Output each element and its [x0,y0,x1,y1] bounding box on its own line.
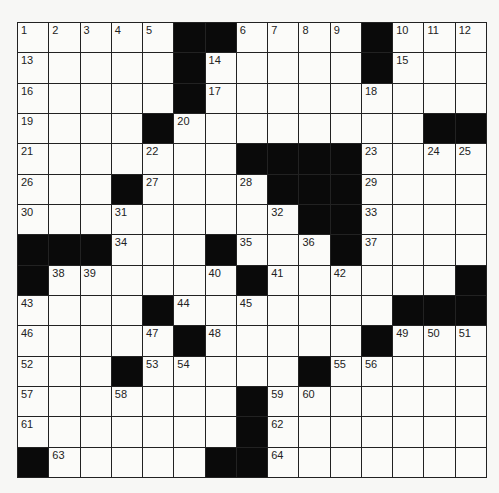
grid-cell-r4-c11[interactable]: 23 [362,144,392,173]
grid-cell-r6-c13[interactable] [424,205,454,234]
grid-cell-r0-c10[interactable]: 9 [331,23,361,52]
grid-cell-r14-c10[interactable] [331,448,361,477]
grid-cell-r9-c8[interactable] [268,296,298,325]
grid-cell-r8-c13[interactable] [424,266,454,295]
grid-cell-r13-c11[interactable] [362,417,392,446]
grid-cell-r2-c6[interactable]: 17 [206,84,236,113]
grid-cell-r8-c6[interactable]: 40 [206,266,236,295]
grid-cell-r10-c12[interactable]: 49 [393,326,423,355]
grid-cell-r8-c9[interactable] [299,266,329,295]
grid-cell-r12-c6[interactable] [206,387,236,416]
grid-cell-r6-c4[interactable] [143,205,173,234]
grid-cell-r6-c11[interactable]: 33 [362,205,392,234]
grid-cell-r5-c11[interactable]: 29 [362,175,392,204]
grid-cell-r6-c6[interactable] [206,205,236,234]
grid-cell-r8-c11[interactable] [362,266,392,295]
grid-cell-r14-c12[interactable] [393,448,423,477]
grid-cell-r3-c7[interactable] [237,114,267,143]
grid-cell-r12-c10[interactable] [331,387,361,416]
grid-cell-r11-c1[interactable] [49,357,79,386]
grid-cell-r1-c1[interactable] [49,53,79,82]
grid-cell-r1-c3[interactable] [112,53,142,82]
grid-cell-r6-c0[interactable]: 30 [18,205,48,234]
grid-cell-r11-c4[interactable]: 53 [143,357,173,386]
grid-cell-r13-c5[interactable] [174,417,204,446]
grid-cell-r13-c13[interactable] [424,417,454,446]
grid-cell-r11-c12[interactable] [393,357,423,386]
grid-cell-r7-c3[interactable]: 34 [112,235,142,264]
grid-cell-r13-c9[interactable] [299,417,329,446]
grid-cell-r12-c8[interactable]: 59 [268,387,298,416]
grid-cell-r0-c13[interactable]: 11 [424,23,454,52]
grid-cell-r10-c14[interactable]: 51 [456,326,486,355]
grid-cell-r11-c8[interactable] [268,357,298,386]
grid-cell-r11-c6[interactable] [206,357,236,386]
grid-cell-r3-c3[interactable] [112,114,142,143]
grid-cell-r11-c7[interactable] [237,357,267,386]
grid-cell-r4-c6[interactable] [206,144,236,173]
grid-cell-r9-c5[interactable]: 44 [174,296,204,325]
grid-cell-r10-c0[interactable]: 46 [18,326,48,355]
grid-cell-r9-c1[interactable] [49,296,79,325]
grid-cell-r13-c1[interactable] [49,417,79,446]
grid-cell-r4-c1[interactable] [49,144,79,173]
grid-cell-r8-c12[interactable] [393,266,423,295]
grid-cell-r8-c10[interactable]: 42 [331,266,361,295]
grid-cell-r13-c4[interactable] [143,417,173,446]
grid-cell-r1-c8[interactable] [268,53,298,82]
grid-cell-r7-c9[interactable]: 36 [299,235,329,264]
grid-cell-r2-c14[interactable] [456,84,486,113]
grid-cell-r12-c9[interactable]: 60 [299,387,329,416]
grid-cell-r12-c2[interactable] [81,387,111,416]
grid-cell-r3-c12[interactable] [393,114,423,143]
grid-cell-r6-c1[interactable] [49,205,79,234]
grid-cell-r10-c1[interactable] [49,326,79,355]
grid-cell-r1-c7[interactable] [237,53,267,82]
grid-cell-r1-c14[interactable] [456,53,486,82]
grid-cell-r0-c2[interactable]: 3 [81,23,111,52]
grid-cell-r12-c13[interactable] [424,387,454,416]
grid-cell-r3-c10[interactable] [331,114,361,143]
grid-cell-r2-c2[interactable] [81,84,111,113]
grid-cell-r5-c7[interactable]: 28 [237,175,267,204]
grid-cell-r9-c0[interactable]: 43 [18,296,48,325]
grid-cell-r13-c10[interactable] [331,417,361,446]
grid-cell-r6-c14[interactable] [456,205,486,234]
grid-cell-r0-c4[interactable]: 5 [143,23,173,52]
grid-cell-r14-c9[interactable] [299,448,329,477]
grid-cell-r5-c6[interactable] [206,175,236,204]
grid-cell-r9-c10[interactable] [331,296,361,325]
grid-cell-r4-c3[interactable] [112,144,142,173]
grid-cell-r11-c2[interactable] [81,357,111,386]
grid-cell-r14-c14[interactable] [456,448,486,477]
grid-cell-r3-c1[interactable] [49,114,79,143]
grid-cell-r3-c5[interactable]: 20 [174,114,204,143]
grid-cell-r13-c8[interactable]: 62 [268,417,298,446]
grid-cell-r11-c13[interactable] [424,357,454,386]
grid-cell-r2-c4[interactable] [143,84,173,113]
grid-cell-r5-c4[interactable]: 27 [143,175,173,204]
grid-cell-r14-c2[interactable] [81,448,111,477]
grid-cell-r10-c10[interactable] [331,326,361,355]
grid-cell-r8-c8[interactable]: 41 [268,266,298,295]
grid-cell-r4-c12[interactable] [393,144,423,173]
grid-cell-r14-c3[interactable] [112,448,142,477]
grid-cell-r1-c10[interactable] [331,53,361,82]
grid-cell-r1-c12[interactable]: 15 [393,53,423,82]
grid-cell-r0-c12[interactable]: 10 [393,23,423,52]
grid-cell-r10-c4[interactable]: 47 [143,326,173,355]
grid-cell-r6-c2[interactable] [81,205,111,234]
grid-cell-r7-c12[interactable] [393,235,423,264]
grid-cell-r11-c14[interactable] [456,357,486,386]
grid-cell-r1-c9[interactable] [299,53,329,82]
grid-cell-r1-c13[interactable] [424,53,454,82]
grid-cell-r11-c10[interactable]: 55 [331,357,361,386]
grid-cell-r2-c10[interactable] [331,84,361,113]
grid-cell-r10-c7[interactable] [237,326,267,355]
grid-cell-r0-c9[interactable]: 8 [299,23,329,52]
grid-cell-r6-c12[interactable] [393,205,423,234]
grid-cell-r11-c5[interactable]: 54 [174,357,204,386]
grid-cell-r12-c14[interactable] [456,387,486,416]
grid-cell-r9-c7[interactable]: 45 [237,296,267,325]
grid-cell-r5-c5[interactable] [174,175,204,204]
